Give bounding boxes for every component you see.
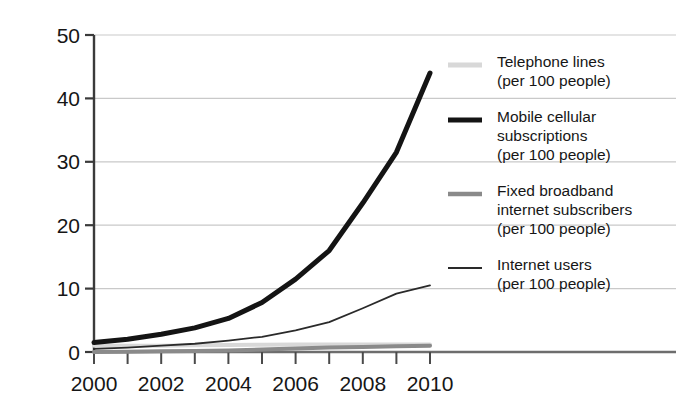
legend-label-internet-users: Internet users (per 100 people): [497, 255, 611, 293]
legend-label-telephone-lines: Telephone lines (per 100 people): [497, 52, 611, 90]
svg-text:40: 40: [57, 87, 80, 110]
svg-text:2002: 2002: [138, 372, 185, 395]
svg-text:0: 0: [68, 341, 80, 364]
x-axis-tick-labels: 200020022004200620082010: [71, 372, 454, 395]
y-axis-tick-labels: 01020304050: [57, 24, 80, 364]
legend-item-mobile-cellular-subscriptions[interactable]: Mobile cellular subscriptions (per 100 p…: [448, 107, 676, 164]
svg-text:2000: 2000: [71, 372, 118, 395]
svg-text:2004: 2004: [205, 372, 252, 395]
svg-text:50: 50: [57, 24, 80, 47]
legend-swatch-internet-users: [448, 255, 488, 272]
legend-item-telephone-lines[interactable]: Telephone lines (per 100 people): [448, 52, 676, 90]
svg-text:2008: 2008: [339, 372, 386, 395]
legend-item-fixed-broadband-internet-subscribers[interactable]: Fixed broadband internet subscribers (pe…: [448, 181, 676, 238]
legend-swatch-fixed-broadband-internet-subscribers: [448, 181, 488, 198]
legend-label-mobile-cellular-subscriptions: Mobile cellular subscriptions (per 100 p…: [497, 107, 611, 164]
legend-swatch-telephone-lines: [448, 52, 488, 69]
series-line-3: [94, 285, 430, 348]
series-line-1: [94, 73, 430, 342]
chart-figure: 01020304050 200020022004200620082010 Tel…: [0, 0, 678, 409]
svg-text:20: 20: [57, 214, 80, 237]
chart-legend: Telephone lines (per 100 people) Mobile …: [448, 52, 676, 310]
legend-swatch-mobile-cellular-subscriptions: [448, 107, 488, 124]
svg-text:10: 10: [57, 277, 80, 300]
svg-text:30: 30: [57, 150, 80, 173]
data-series-lines: [94, 73, 430, 352]
legend-label-fixed-broadband-internet-subscribers: Fixed broadband internet subscribers (pe…: [497, 181, 632, 238]
svg-text:2006: 2006: [272, 372, 319, 395]
legend-item-internet-users[interactable]: Internet users (per 100 people): [448, 255, 676, 293]
svg-text:2010: 2010: [407, 372, 454, 395]
